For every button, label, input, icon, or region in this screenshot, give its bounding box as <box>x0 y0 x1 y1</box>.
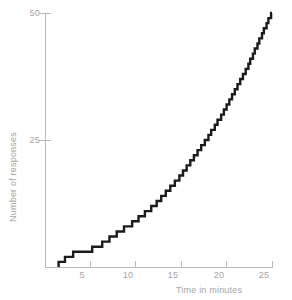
step-curve-0 <box>59 13 272 267</box>
plot-area <box>0 0 292 300</box>
x-tick-label-25: 25 <box>249 270 279 280</box>
y-tick-label-50: 50 <box>14 8 40 18</box>
x-tick-label-5: 5 <box>67 270 97 280</box>
x-axis-title: Time in minutes <box>176 285 242 295</box>
x-tick-label-10: 10 <box>113 270 143 280</box>
x-tick-label-20: 20 <box>204 270 234 280</box>
x-tick-label-15: 15 <box>158 270 188 280</box>
cumulative-response-chart: 50 25 5 10 15 20 25 Time in minutes Numb… <box>0 0 292 300</box>
y-axis-title: Number of responses <box>8 122 18 232</box>
